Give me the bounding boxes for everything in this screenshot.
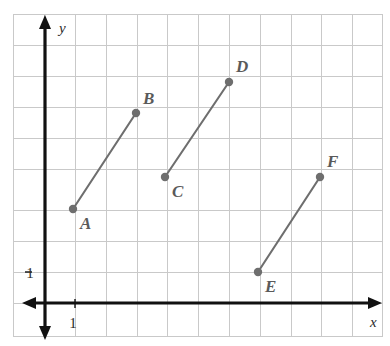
y-axis-label: y xyxy=(57,20,66,36)
point-A xyxy=(69,205,77,213)
point-label-A: A xyxy=(79,214,91,233)
point-label-D: D xyxy=(235,57,248,76)
point-label-B: B xyxy=(142,89,154,108)
y-axis-tick-label-1: 1 xyxy=(26,265,34,281)
point-label-F: F xyxy=(326,152,339,171)
point-D xyxy=(225,78,233,86)
x-axis-label: x xyxy=(369,314,377,330)
point-B xyxy=(132,109,140,117)
point-F xyxy=(316,173,324,181)
point-E xyxy=(254,268,262,276)
x-axis-tick-label-1: 1 xyxy=(69,315,77,331)
coordinate-plane-svg: A B C D E F y x 1 1 xyxy=(0,0,390,346)
point-label-C: C xyxy=(172,182,184,201)
coordinate-plane-figure: A B C D E F y x 1 1 xyxy=(0,0,390,346)
point-label-E: E xyxy=(264,277,276,296)
point-C xyxy=(161,173,169,181)
